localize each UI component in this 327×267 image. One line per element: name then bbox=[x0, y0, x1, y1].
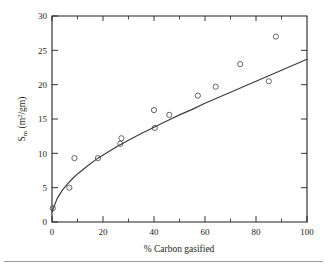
x-tick-label: 80 bbox=[252, 227, 262, 237]
y-axis-major-ticks bbox=[52, 16, 58, 222]
x-axis-title: % Carbon gasified bbox=[144, 244, 215, 254]
y-axis-title-unit-open: (m bbox=[17, 117, 28, 131]
x-tick-label: 60 bbox=[201, 227, 211, 237]
fit-curve-group bbox=[52, 59, 307, 211]
x-axis-tick-labels: 0 20 40 60 80 100 bbox=[50, 227, 315, 237]
x-tick-label: 40 bbox=[150, 227, 160, 237]
footer-divider bbox=[4, 261, 323, 262]
figure-container: 0 20 40 60 80 100 0 5 10 15 20 25 30 % C… bbox=[0, 0, 327, 267]
top-axis-ticks bbox=[52, 16, 282, 21]
svg-text:Sm (m2/gm): Sm (m2/gm) bbox=[16, 97, 28, 142]
data-point bbox=[167, 112, 172, 117]
data-point bbox=[238, 61, 243, 66]
data-point bbox=[67, 185, 72, 190]
x-tick-label: 20 bbox=[99, 227, 109, 237]
right-axis-ticks bbox=[301, 50, 307, 187]
axes-frame bbox=[52, 16, 307, 222]
scatter-plot: 0 20 40 60 80 100 0 5 10 15 20 25 30 % C… bbox=[0, 0, 327, 267]
y-tick-label: 0 bbox=[43, 217, 48, 227]
x-tick-label: 0 bbox=[50, 227, 55, 237]
y-tick-label: 15 bbox=[38, 114, 48, 124]
data-point bbox=[195, 93, 200, 98]
data-point bbox=[72, 156, 77, 161]
data-point bbox=[151, 107, 156, 112]
y-tick-label: 20 bbox=[38, 80, 48, 90]
y-tick-label: 5 bbox=[43, 183, 48, 193]
fit-curve bbox=[52, 59, 307, 211]
y-axis-tick-labels: 0 5 10 15 20 25 30 bbox=[38, 11, 48, 227]
data-point bbox=[273, 34, 278, 39]
y-axis-title: Sm (m2/gm) bbox=[16, 97, 28, 142]
y-tick-label: 10 bbox=[38, 149, 48, 159]
y-tick-label: 25 bbox=[38, 46, 48, 56]
data-point bbox=[213, 84, 218, 89]
data-point bbox=[266, 79, 271, 84]
x-tick-label: 100 bbox=[300, 227, 314, 237]
data-point bbox=[119, 136, 124, 141]
y-axis-title-unit-close: /gm) bbox=[17, 97, 28, 115]
y-tick-label: 30 bbox=[38, 11, 48, 21]
